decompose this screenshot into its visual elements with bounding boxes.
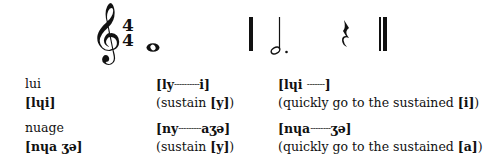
incorrect-pronunciation: [ly----------i] bbox=[156, 77, 210, 92]
ipa-end: aʒə] bbox=[201, 121, 230, 136]
whole-note-icon bbox=[145, 42, 161, 53]
treble-clef-icon: 𝄞 bbox=[91, 6, 122, 58]
correct-note: (quickly go to the sustained [a]) bbox=[278, 140, 483, 154]
incorrect-note: (sustain [y]) bbox=[156, 140, 234, 154]
note-close: ) bbox=[229, 139, 234, 154]
note-ipa: [y] bbox=[210, 139, 229, 154]
sustain-dashes: ---------- bbox=[174, 79, 199, 89]
incorrect-pronunciation: [ny---------aʒə] bbox=[156, 121, 230, 136]
correct-note: (quickly go to the sustained [i]) bbox=[278, 96, 479, 110]
note-close: ) bbox=[478, 139, 483, 154]
double-barline-thick-icon bbox=[383, 17, 387, 51]
ipa-end: ] bbox=[325, 77, 331, 92]
note-text: (quickly go to the sustained bbox=[278, 139, 458, 154]
ipa-transcription: [lɥi] bbox=[25, 96, 55, 110]
ipa-start: [ny bbox=[156, 121, 178, 136]
correct-pronunciation: [lɥi -------] bbox=[278, 77, 331, 92]
note-ipa: [i] bbox=[458, 95, 475, 110]
ipa-end: ʒə] bbox=[331, 121, 352, 136]
note-text: (sustain bbox=[156, 139, 210, 154]
note-ipa: [y] bbox=[210, 95, 229, 110]
double-barline-thin-icon bbox=[379, 17, 381, 51]
ipa-start: [lɥi bbox=[278, 77, 307, 92]
ipa-start: [nɥa bbox=[278, 121, 310, 136]
word: nuage bbox=[25, 121, 64, 135]
note-close: ) bbox=[474, 95, 479, 110]
barline-icon bbox=[249, 17, 253, 51]
note-text: (sustain bbox=[156, 95, 210, 110]
sustain-dashes: --------- bbox=[178, 123, 201, 133]
dotted-half-note-icon bbox=[270, 15, 294, 57]
sustain-dashes: -------- bbox=[310, 123, 330, 133]
ipa-end: i] bbox=[199, 77, 210, 92]
ipa-transcription: [nɥa ʒə] bbox=[25, 140, 83, 154]
note-ipa: [a] bbox=[458, 139, 478, 154]
incorrect-note: (sustain [y]) bbox=[156, 96, 234, 110]
time-signature-bottom: 4 bbox=[121, 33, 135, 48]
sustain-dashes: ------- bbox=[307, 79, 325, 89]
word: lui bbox=[25, 77, 41, 91]
time-signature: 4 4 bbox=[121, 18, 135, 48]
ipa-start: [ly bbox=[156, 77, 174, 92]
correct-pronunciation: [nɥa--------ʒə] bbox=[278, 121, 352, 136]
note-close: ) bbox=[229, 95, 234, 110]
quarter-rest-icon bbox=[340, 19, 352, 49]
note-text: (quickly go to the sustained bbox=[278, 95, 458, 110]
